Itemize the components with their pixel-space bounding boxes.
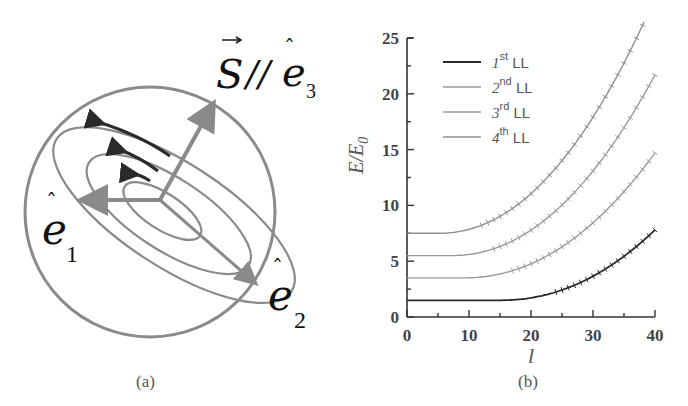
legend-entry: 3rd LL xyxy=(491,100,530,121)
svg-text://: // xyxy=(243,53,274,94)
label-e2: e ˆ 2 xyxy=(268,256,306,333)
y-tick-label: 10 xyxy=(382,196,399,215)
y-axis-label: E/E0 xyxy=(345,137,371,175)
y-tick-label: 0 xyxy=(391,308,400,327)
label-e1: e ˆ 1 xyxy=(42,190,78,267)
y-tick-label: 5 xyxy=(391,252,400,271)
y-tick-label: 15 xyxy=(382,141,399,160)
label-s-parallel-e3: S // e ˆ 3 xyxy=(216,36,316,102)
svg-text:3: 3 xyxy=(306,80,316,102)
y-tick-label: 20 xyxy=(382,85,399,104)
legend-entry: 1st LL xyxy=(492,50,529,71)
x-tick-label: 40 xyxy=(647,326,664,345)
series-line-2 xyxy=(407,153,655,278)
svg-text:ˆ: ˆ xyxy=(284,36,295,61)
circulation-arrow-inner xyxy=(132,174,150,181)
x-tick-label: 0 xyxy=(403,326,412,345)
svg-text:2: 2 xyxy=(294,307,306,333)
series-line-3 xyxy=(407,75,655,256)
e2-vector xyxy=(160,200,254,282)
panel-b-label: (b) xyxy=(518,372,538,392)
x-tick-label: 10 xyxy=(461,326,478,345)
panel-a-diagram: S // e ˆ 3 e ˆ 1 e ˆ 2 xyxy=(25,36,320,337)
svg-text:S: S xyxy=(216,51,243,97)
svg-text:ˆ: ˆ xyxy=(272,256,283,281)
panel-a-label: (a) xyxy=(136,372,155,392)
circulation-arrow-outer xyxy=(98,122,170,156)
figure: S // e ˆ 3 e ˆ 1 e ˆ 2 01020304005101520… xyxy=(0,0,688,406)
x-tick-label: 30 xyxy=(585,326,602,345)
x-axis-label: l xyxy=(528,343,534,368)
y-tick-label: 25 xyxy=(382,29,399,48)
orbit-inner xyxy=(115,171,210,250)
legend-entry: 4th LL xyxy=(492,125,530,146)
panel-b-chart: 0102030400510152025lE/E01st LL2nd LL3rd … xyxy=(345,22,664,368)
svg-text:1: 1 xyxy=(66,241,78,267)
svg-text:ˆ: ˆ xyxy=(46,190,57,215)
legend-entry: 2nd LL xyxy=(492,75,533,96)
series-line-1 xyxy=(407,230,655,300)
